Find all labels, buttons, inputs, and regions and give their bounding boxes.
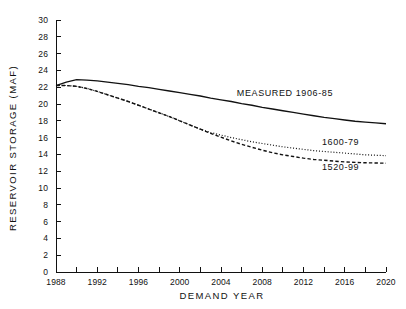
y-tick-label: 6: [43, 217, 48, 227]
x-tick-label: 1992: [88, 277, 107, 287]
y-tick-label: 4: [43, 233, 48, 243]
dotted-series-label: 1600-79: [322, 137, 359, 147]
y-tick-label: 30: [38, 15, 48, 25]
series-line-dashed: [56, 86, 386, 164]
chart-container: 024681012141618202224262830 198819921996…: [0, 0, 406, 309]
y-tick-label: 2: [43, 250, 48, 260]
x-tick-label: 2020: [376, 277, 395, 287]
y-tick-label: 28: [38, 32, 48, 42]
y-tick-label: 22: [38, 82, 48, 92]
y-axis-tick-labels: 024681012141618202224262830: [38, 15, 48, 277]
x-axis-ticks: [56, 267, 386, 272]
series-annotations: MEASURED 1906-851600-791520-99: [237, 88, 359, 173]
x-tick-label: 1988: [46, 277, 65, 287]
y-tick-label: 24: [38, 65, 48, 75]
x-tick-label: 2000: [170, 277, 189, 287]
y-tick-label: 16: [38, 133, 48, 143]
x-axis-tick-labels: 198819921996200020042008201220162020: [46, 277, 395, 287]
x-tick-label: 2008: [253, 277, 272, 287]
y-axis-title: RESERVOIR STORAGE (MAF): [7, 65, 18, 231]
y-tick-label: 8: [43, 200, 48, 210]
y-tick-label: 26: [38, 49, 48, 59]
data-series-group: [56, 80, 386, 164]
x-tick-label: 2016: [335, 277, 354, 287]
x-tick-label: 2012: [294, 277, 313, 287]
y-tick-label: 18: [38, 116, 48, 126]
y-tick-label: 10: [38, 183, 48, 193]
x-tick-label: 2004: [211, 277, 230, 287]
y-tick-label: 20: [38, 99, 48, 109]
line-chart: 024681012141618202224262830 198819921996…: [0, 0, 406, 309]
dashed-series-label: 1520-99: [322, 162, 359, 172]
x-axis-title: DEMAND YEAR: [180, 290, 265, 301]
y-axis-ticks: [56, 20, 61, 272]
measured-series-label: MEASURED 1906-85: [237, 88, 333, 98]
series-line-solid: [56, 80, 386, 124]
x-tick-label: 1996: [129, 277, 148, 287]
y-tick-label: 14: [38, 149, 48, 159]
y-tick-label: 12: [38, 166, 48, 176]
y-tick-label: 0: [43, 267, 48, 277]
